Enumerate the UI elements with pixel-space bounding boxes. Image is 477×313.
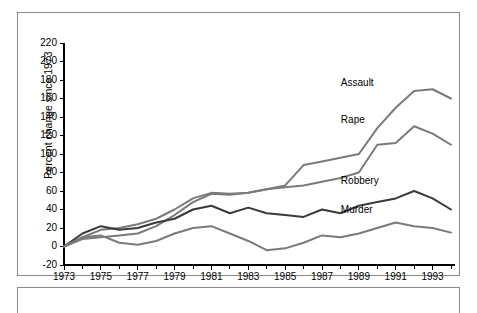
x-tick-label: 1985 <box>265 271 305 282</box>
y-tick-label: -20 <box>23 259 57 270</box>
x-tick-label: 1983 <box>228 271 268 282</box>
x-tick-label: 1991 <box>376 271 416 282</box>
chart-series <box>64 89 451 250</box>
line-chart-plot <box>18 13 459 275</box>
x-tick-label: 1975 <box>81 271 121 282</box>
series-line-robbery <box>64 191 451 247</box>
chart-frame: -20020406080100120140160180200220 197319… <box>17 12 460 276</box>
next-figure-frame <box>17 287 460 313</box>
x-tick-label: 1973 <box>44 271 84 282</box>
x-tick-label: 1993 <box>413 271 453 282</box>
x-tick-label: 1977 <box>118 271 158 282</box>
series-label-rape: Rape <box>341 114 365 125</box>
series-label-assault: Assault <box>341 77 374 88</box>
series-label-murder: Murder <box>341 204 373 215</box>
x-tick-label: 1981 <box>191 271 231 282</box>
x-tick-label: 1989 <box>339 271 379 282</box>
y-axis-title: Percent change since 1973 <box>42 25 54 205</box>
y-tick-label: 20 <box>23 222 57 233</box>
x-tick-label: 1987 <box>302 271 342 282</box>
y-tick-label: 0 <box>23 240 57 251</box>
x-tick-label: 1979 <box>155 271 195 282</box>
series-label-robbery: Robbery <box>341 175 379 186</box>
